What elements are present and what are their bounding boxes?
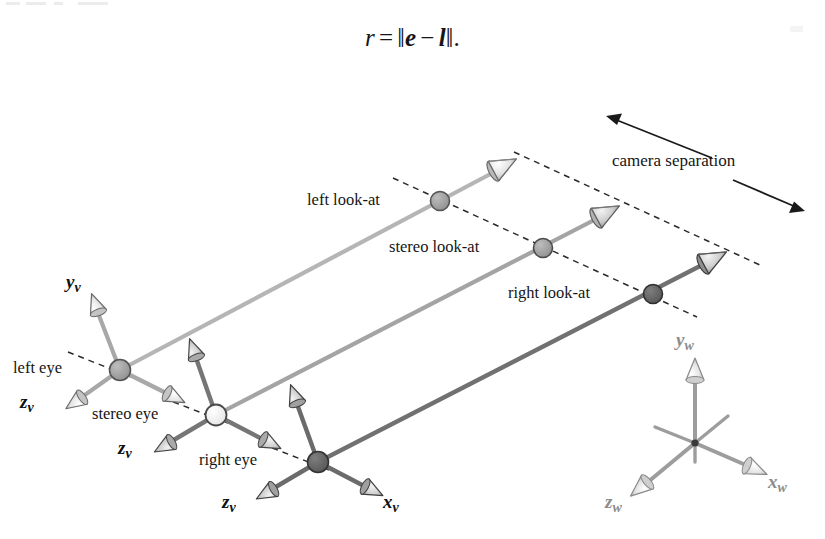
right-eye-y-cone-icon [283,382,307,410]
axis-label-right-eye-z: zv [222,492,236,511]
stereo-ray-cone-icon [587,196,624,230]
axis-label-left-eye-z: zv [20,392,34,411]
axis-label-world-z: zw [605,492,622,511]
world-x-cone-icon [740,456,771,483]
axis-label-left-eye-z-sub: v [27,400,33,415]
stereo-eye-y-cone-icon [182,336,206,364]
label-stereo-eye: stereo eye [92,406,158,423]
axis-label-world-y-sub: w [684,338,693,353]
world-y-cone-icon [686,358,704,384]
axis-label-left-eye-y: yv [66,272,81,291]
stereo-eye-x-cone-icon [256,430,285,456]
axis-label-world-z-sub: w [612,500,621,515]
axis-label-right-eye-x-name: x [383,491,393,512]
node-right-eye [308,452,329,473]
axis-label-world-x-sub: w [778,480,787,495]
axis-label-stereo-eye-z-sub: v [125,446,131,461]
stereo-eye-z-cone-icon [150,433,179,459]
world-axes [625,358,771,503]
left-eye-y-cone-icon [84,291,108,319]
label-left-eye: left eye [13,360,62,377]
stereo-view-ray [216,196,625,415]
node-world-origin [691,439,698,446]
axis-label-world-y: yw [676,330,694,349]
label-right-lookat: right look-at [508,285,590,302]
right-view-ray [318,242,732,462]
node-stereo-lookat [534,239,553,258]
axis-label-world-x-name: x [768,471,778,492]
left-eye-axes [61,291,189,416]
label-right-eye: right eye [199,452,257,469]
left-view-ray [120,149,522,370]
stereo-camera-diagram: r=‖e−l‖. [0,0,825,539]
diagram-canvas [0,0,825,539]
axis-label-right-eye-x: xv [383,492,399,511]
left-ray-cone-icon [484,149,521,183]
node-left-lookat [431,192,450,211]
right-ray-cone-icon [694,242,731,276]
node-right-lookat [644,285,663,304]
label-left-lookat: left look-at [307,192,380,209]
right-eye-z-cone-icon [252,480,281,506]
node-stereo-eye [206,405,227,426]
label-stereo-lookat: stereo look-at [389,239,479,256]
node-left-eye [110,360,131,381]
label-camera-separation: camera separation [612,152,735,169]
axis-label-right-eye-z-sub: v [229,500,235,515]
axis-label-left-eye-y-sub: v [74,280,80,295]
axis-label-stereo-eye-z: zv [118,438,132,457]
axis-label-right-eye-x-sub: v [393,500,399,515]
axis-label-world-x: xw [768,472,787,491]
